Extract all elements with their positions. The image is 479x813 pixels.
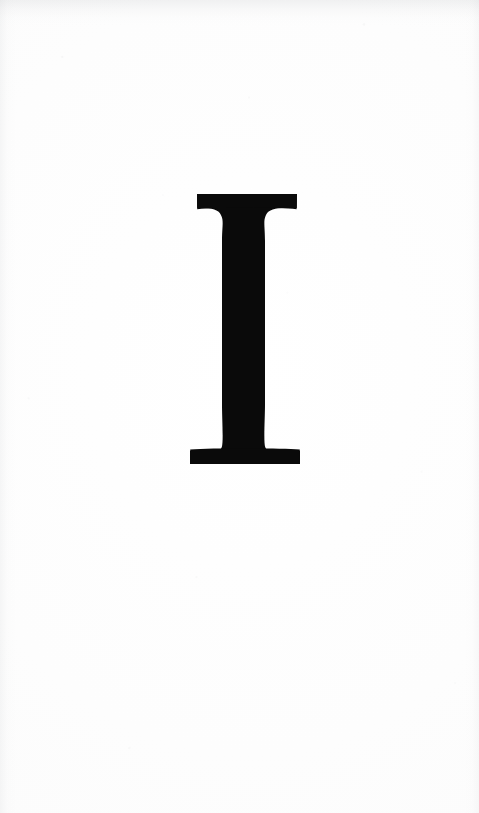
capital-letter-i-glyph [0, 0, 479, 813]
capital-letter-i-top-serif [197, 194, 297, 209]
capital-letter-i-bottom-serif [190, 448, 300, 464]
capital-letter-i-path [190, 194, 300, 464]
drop-cap-layer [0, 0, 479, 813]
scanned-page [0, 0, 479, 813]
